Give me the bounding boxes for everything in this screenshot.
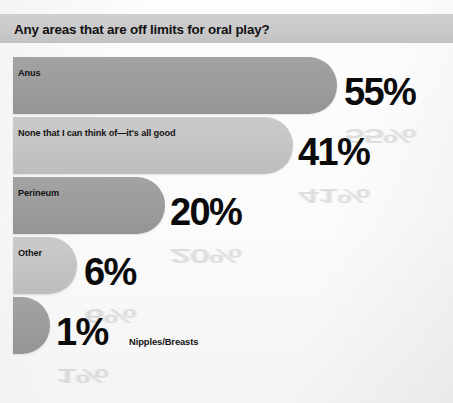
bar-row: 1% 1% Nipples/Breasts — [0, 297, 453, 354]
bar-label-nipples-breasts: Nipples/Breasts — [129, 336, 198, 347]
bar-row: Other 6% 6% — [0, 237, 453, 294]
bar-perineum — [13, 177, 165, 234]
bar-other — [13, 237, 77, 294]
bar-label-perineum: Perineum — [18, 188, 59, 198]
bar-value-other: 6% — [84, 253, 136, 291]
bar-value-anus: 55% — [344, 73, 415, 111]
bar-chart-plot: Anus 55% 55% None that I can think of—it… — [0, 48, 453, 388]
bar-anus — [13, 57, 337, 114]
page-title: Any areas that are off limits for oral p… — [14, 21, 269, 36]
chart-title-banner: Any areas that are off limits for oral p… — [0, 14, 453, 43]
bar-row: Perineum 20% 20% — [0, 177, 453, 234]
bar-value-nipples-breasts-reflection: 1% — [56, 366, 108, 387]
bar-none-all-good — [13, 117, 293, 174]
bar-row: None that I can think of—it's all good 4… — [0, 117, 453, 174]
chart-page: Any areas that are off limits for oral p… — [0, 0, 453, 403]
bar-nipples-breasts — [13, 297, 50, 354]
bar-label-none-all-good: None that I can think of—it's all good — [18, 128, 176, 138]
bar-row: Anus 55% 55% — [0, 57, 453, 114]
bar-value-perineum: 20% — [170, 193, 241, 231]
bar-value-none-all-good: 41% — [298, 133, 369, 171]
bar-label-other: Other — [18, 248, 42, 258]
bar-label-anus: Anus — [18, 68, 41, 78]
bar-value-nipples-breasts: 1% — [56, 313, 108, 351]
